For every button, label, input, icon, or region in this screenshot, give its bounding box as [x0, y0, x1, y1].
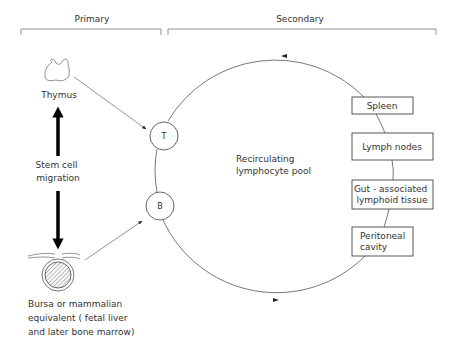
secondary-organ-peritoneal: Peritoneal cavity [352, 227, 413, 256]
stem-cell-label-line-2: migration [36, 173, 79, 183]
spleen-label: Spleen [367, 101, 398, 111]
loop-arrow-bottom [273, 298, 279, 302]
peritoneal-label-line-1: Peritoneal [360, 231, 405, 241]
lymph-nodes-label: Lymph nodes [362, 142, 422, 152]
b-cell-label: B [157, 202, 163, 211]
peritoneal-label-line-2: cavity [360, 242, 388, 252]
loop-arc-top [168, 60, 364, 121]
secondary-header: Secondary [276, 14, 324, 24]
stem-cell-label: Stem cell migration [36, 160, 81, 183]
loop-arc-left [155, 149, 157, 192]
loop-arc-bottom [163, 220, 365, 293]
bursa-label-line-1: Bursa or mammalian [28, 299, 122, 309]
loop-arc-lymph-gut [392, 160, 393, 180]
loop-arc-spleen-lymph [376, 114, 385, 133]
loop-arc-gut-peritoneal [384, 209, 389, 227]
pool-label-line-2: lymphocyte pool [236, 166, 311, 176]
thymus-to-t-arrow [74, 77, 146, 129]
secondary-organ-spleen: Spleen [352, 97, 413, 114]
thymus-label: Thymus [40, 90, 77, 100]
stem-cell-label-line-1: Stem cell [36, 160, 78, 170]
loop-arrow-top [281, 54, 287, 58]
primary-header: Primary [75, 14, 110, 24]
secondary-organ-galt: Gut - associated lymphoid tissue [352, 180, 433, 209]
pool-label-line-1: Recirculating [236, 154, 294, 164]
secondary-bracket [168, 29, 436, 35]
bursa-label: Bursa or mammalian equivalent ( fetal li… [28, 299, 134, 337]
bursa-label-line-3: and later bone marrow) [28, 327, 134, 337]
secondary-organ-lymph-nodes: Lymph nodes [352, 133, 433, 160]
bursa-organ-icon [28, 253, 80, 291]
galt-label: Gut - associated lymphoid tissue [354, 184, 430, 205]
lymphoid-organ-diagram: Primary Secondary T B Recirculating lymp… [0, 0, 458, 353]
galt-label-line-1: Gut - associated [354, 184, 427, 194]
primary-bracket [21, 29, 161, 35]
recirculation-loop [155, 54, 393, 302]
bursa-to-b-arrow [85, 221, 142, 260]
thymus-organ-icon [45, 59, 70, 81]
pool-label: Recirculating lymphocyte pool [236, 154, 311, 176]
galt-label-line-2: lymphoid tissue [356, 195, 428, 205]
bursa-label-line-2: equivalent ( fetal liver [28, 313, 128, 323]
t-cell-label: T [161, 132, 167, 141]
